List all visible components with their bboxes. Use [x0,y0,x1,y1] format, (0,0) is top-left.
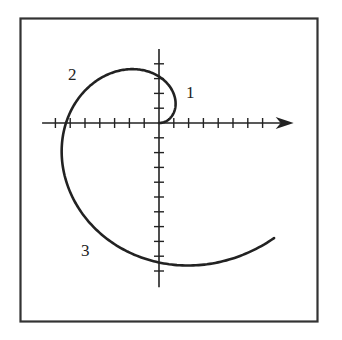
spiral-curve [62,69,274,265]
label-2: 2 [68,65,77,84]
label-3: 3 [81,241,90,260]
label-1: 1 [186,83,195,102]
frame-border [21,19,318,322]
spiral-diagram: 1 2 3 [0,0,342,340]
